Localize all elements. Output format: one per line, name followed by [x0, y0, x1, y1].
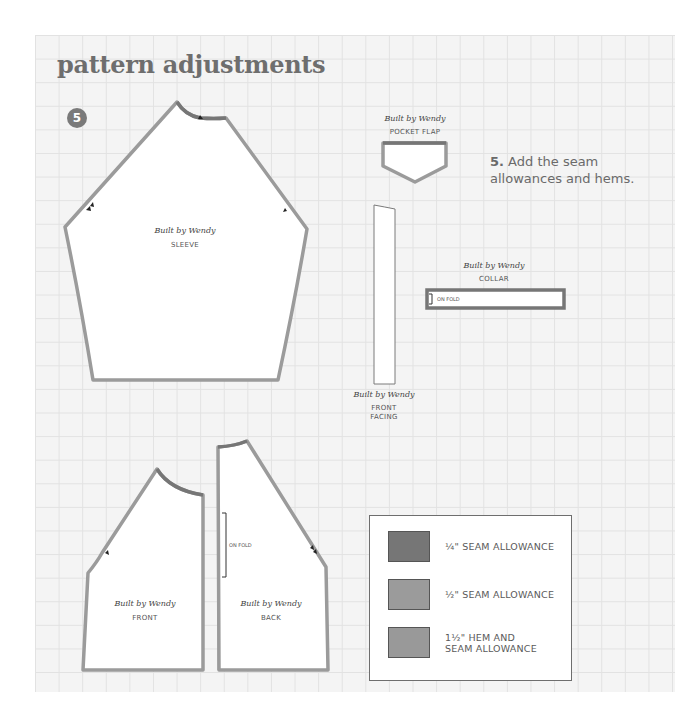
back-fold-label: ON FOLD [229, 542, 252, 548]
legend-label-hem-line2: SEAM ALLOWANCE [445, 643, 565, 654]
front-piece: Built by Wendy FRONT [83, 469, 203, 670]
back-brand-mark: Built by Wendy [239, 599, 302, 608]
legend-label-hem: 1½" HEM AND SEAM ALLOWANCE [445, 632, 565, 654]
front-facing-label-line1: FRONT [371, 404, 397, 412]
back-piece: ON FOLD Built by Wendy BACK [218, 441, 328, 670]
pocket-flap-piece: Built by Wendy POCKET FLAP [383, 114, 446, 182]
sleeve-piece: Built by Wendy SLEEVE [65, 102, 307, 380]
front-facing-label-line2: FACING [370, 413, 397, 421]
sleeve-brand-mark: Built by Wendy [153, 226, 216, 235]
legend-item-half-inch: ½" SEAM ALLOWANCE [388, 579, 565, 610]
sleeve-label: SLEEVE [171, 241, 199, 249]
legend-swatch-hem [388, 627, 430, 658]
front-label: FRONT [132, 614, 158, 622]
legend-item-quarter-inch: ¼" SEAM ALLOWANCE [388, 531, 565, 562]
collar-brand-mark: Built by Wendy [462, 261, 525, 270]
legend-swatch-half-inch [388, 579, 430, 610]
legend-label-half-inch: ½" SEAM ALLOWANCE [445, 589, 565, 600]
front-brand-mark: Built by Wendy [113, 599, 176, 608]
collar-piece: Built by Wendy COLLAR ON FOLD [427, 261, 564, 308]
front-facing-brand-mark: Built by Wendy [352, 390, 415, 399]
pocket-flap-label: POCKET FLAP [390, 128, 441, 136]
collar-label: COLLAR [479, 275, 509, 283]
front-facing-piece: Built by Wendy FRONT FACING [352, 205, 415, 421]
pocket-flap-brand-mark: Built by Wendy [383, 114, 446, 123]
collar-fold-label: ON FOLD [437, 296, 460, 302]
legend-label-hem-line1: 1½" HEM AND [445, 632, 565, 643]
legend-item-hem: 1½" HEM AND SEAM ALLOWANCE [388, 627, 565, 658]
back-label: BACK [261, 614, 281, 622]
legend-label-quarter-inch: ¼" SEAM ALLOWANCE [445, 541, 565, 552]
seam-allowance-legend: ¼" SEAM ALLOWANCE ½" SEAM ALLOWANCE 1½" … [369, 515, 572, 681]
pattern-pieces-diagram: Built by Wendy SLEEVE Built by Wendy POC… [0, 0, 695, 721]
legend-swatch-quarter-inch [388, 531, 430, 562]
